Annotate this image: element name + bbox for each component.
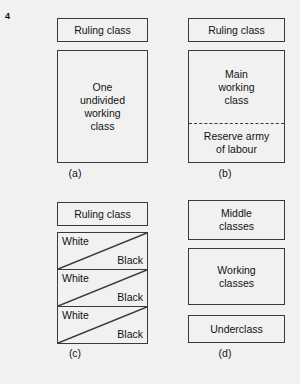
panel-c: Ruling class White Black White Black Whi… xyxy=(0,192,150,384)
panel-c-caption: (c) xyxy=(0,347,150,359)
panel-d-working-classes-label: Working classes xyxy=(215,264,257,290)
panel-c-ruling-class-box: Ruling class xyxy=(57,202,148,226)
panel-a-working-class-label: One undivided working class xyxy=(78,81,127,133)
panel-b-reserve-army-section: Reserve army of labour xyxy=(189,123,284,162)
panel-b-ruling-class-label: Ruling class xyxy=(206,24,267,37)
panel-d-middle-classes-box: Middle classes xyxy=(188,200,285,240)
panel-c-white-label: White xyxy=(62,309,89,322)
panel-c-ruling-class-label: Ruling class xyxy=(72,208,133,221)
panel-d: Middle classes Working classes Underclas… xyxy=(150,192,300,384)
panel-b-ruling-class-box: Ruling class xyxy=(188,18,285,42)
panel-c-split-box: White Black xyxy=(57,306,148,344)
panel-c-black-label: Black xyxy=(117,328,143,341)
panel-c-split-box: White Black xyxy=(57,269,148,307)
panel-a-ruling-class-label: Ruling class xyxy=(72,24,133,37)
panel-a-working-class-box: One undivided working class xyxy=(57,50,148,163)
panel-a: Ruling class One undivided working class… xyxy=(0,0,150,192)
panel-c-white-label: White xyxy=(62,235,89,248)
panel-b-main-working-class-label: Main working class xyxy=(216,68,256,107)
panel-b-main-working-class-section: Main working class xyxy=(189,51,284,123)
panel-b-caption: (b) xyxy=(150,167,300,179)
panel-c-black-label: Black xyxy=(117,254,143,267)
panel-c-split-box: White Black xyxy=(57,232,148,270)
panel-d-underclass-label: Underclass xyxy=(208,323,265,336)
class-structure-figure: 4 Ruling class One undivided working cla… xyxy=(0,0,300,384)
panel-b: Ruling class Main working class Reserve … xyxy=(150,0,300,192)
panel-b-working-class-box: Main working class Reserve army of labou… xyxy=(188,50,285,163)
panel-a-ruling-class-box: Ruling class xyxy=(57,18,148,42)
panel-d-underclass-box: Underclass xyxy=(188,315,285,343)
panel-c-white-label: White xyxy=(62,272,89,285)
panel-c-black-label: Black xyxy=(117,291,143,304)
panel-d-middle-classes-label: Middle classes xyxy=(217,207,256,233)
panel-a-caption: (a) xyxy=(0,167,150,179)
panel-d-working-classes-box: Working classes xyxy=(188,248,285,305)
panel-b-reserve-army-label: Reserve army of labour xyxy=(202,130,271,156)
panel-d-caption: (d) xyxy=(150,347,300,359)
